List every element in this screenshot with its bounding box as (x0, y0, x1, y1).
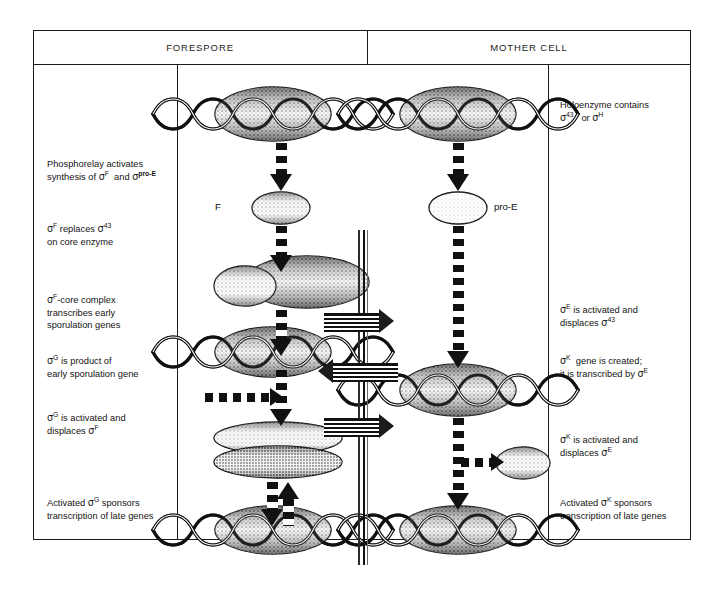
mothercell-arrow-2 (453, 226, 464, 368)
note-phosphorelay-line-2: synthesis of σF and σpro-E (47, 171, 156, 184)
forespore-arrow-2 (276, 226, 287, 272)
mothercell-sigma-k-blob (496, 447, 550, 479)
note-sigma-k-gene-line-1: σK gene is created; (560, 355, 648, 368)
mothercell-pro-e-blob (429, 192, 487, 224)
label-pro-e: pro-E (494, 201, 517, 212)
note-sigma-g-activated-line-1: σG is activated and (47, 412, 126, 425)
septum-membrane (358, 230, 369, 565)
note-sigma-g-sponsors-line-1: Activated σG sponsors (47, 497, 153, 510)
mothercell-horizontal-arrow (461, 458, 503, 467)
septum-arrow-3 (324, 418, 394, 435)
note-sigma-f-core-line-1: σF-core complex (47, 294, 120, 307)
forespore-sigma-f-blob (252, 192, 310, 224)
note-holoenzyme-line-2: σ43 or σH (560, 112, 649, 125)
note-sigma-k-activated-line-2: displaces σE (560, 447, 638, 460)
mothercell-dna-3 (338, 506, 578, 554)
forespore-horizontal-arrow (205, 393, 283, 402)
note-sigma-g-activated-line-2: displaces σF (47, 425, 126, 438)
forespore-arrow-5-up (283, 482, 294, 526)
forespore-dna-1 (153, 87, 393, 141)
forespore-arrow-4 (276, 370, 287, 426)
note-sigma-g-sponsors: Activated σG sponsors transcription of l… (47, 497, 153, 522)
mothercell-dna-1 (338, 87, 578, 141)
note-sigma-f-core-line-2: transcribes early (47, 307, 120, 320)
note-sigma-g-product: σG is product of early sporulation gene (47, 355, 138, 380)
header-forespore-label: FORESPORE (166, 42, 234, 53)
header-mother-cell-label: MOTHER CELL (490, 42, 567, 53)
header-forespore: FORESPORE (33, 30, 367, 64)
frame-bottom-rule (33, 539, 691, 540)
forespore-arrow-1 (276, 143, 287, 191)
forespore-dna-2 (153, 327, 393, 377)
note-sigma-e-activated-line-2: displaces σ43 (560, 317, 638, 330)
forespore-arrow-5 (267, 482, 278, 526)
note-sigma-e-activated: σE is activated and displaces σ43 (560, 304, 638, 329)
septum-arrow-1 (324, 313, 394, 330)
label-f: F (215, 201, 221, 212)
note-phosphorelay: Phosphorelay activates synthesis of σF a… (47, 158, 156, 183)
septum-arrow-2 (318, 363, 398, 380)
note-sigma-f-replaces-line-2: on core enzyme (47, 236, 113, 249)
note-sigma-k-activated: σK is activated and displaces σE (560, 434, 638, 459)
frame-left-rule (33, 30, 34, 540)
note-sigma-f-replaces: σF replaces σ43 on core enzyme (47, 223, 113, 248)
note-sigma-k-gene-line-2: it is transcribed by σE (560, 368, 648, 381)
note-sigma-g-product-line-2: early sporulation gene (47, 368, 138, 381)
forespore-core-complex (214, 256, 369, 308)
note-sigma-k-sponsors-line-2: transcription of late genes (560, 510, 666, 523)
note-holoenzyme: Holoenzyme contains σ43 or σH (560, 99, 649, 124)
note-sigma-k-sponsors: Activated σK sponsors transcription of l… (560, 497, 666, 522)
header-mother-cell: MOTHER CELL (368, 30, 690, 64)
note-sigma-k-gene: σK gene is created; it is transcribed by… (560, 355, 648, 380)
note-sigma-k-sponsors-line-1: Activated σK sponsors (560, 497, 666, 510)
forespore-sigma-g-complex (214, 422, 342, 478)
note-sigma-g-sponsors-line-2: transcription of late genes (47, 510, 153, 523)
right-column-divider (548, 64, 549, 540)
mothercell-arrow-1 (453, 143, 464, 191)
left-column-divider (177, 64, 178, 540)
mothercell-dna-2 (338, 364, 578, 416)
forespore-dna-3 (153, 506, 393, 554)
frame-right-rule (690, 30, 691, 540)
sporulation-sigma-factor-figure: FORESPORE MOTHER CELL Phosphorelay activ… (33, 30, 691, 540)
mothercell-arrow-3 (453, 418, 464, 510)
note-sigma-k-activated-line-1: σK is activated and (560, 434, 638, 447)
forespore-arrow-3 (276, 310, 287, 356)
note-sigma-f-core: σF-core complex transcribes early sporul… (47, 294, 120, 332)
note-sigma-g-product-line-1: σG is product of (47, 355, 138, 368)
note-sigma-f-core-line-3: sporulation genes (47, 319, 120, 332)
note-sigma-f-replaces-line-1: σF replaces σ43 (47, 223, 113, 236)
header-bottom-rule (33, 64, 691, 65)
note-sigma-g-activated: σG is activated and displaces σF (47, 412, 126, 437)
note-sigma-e-activated-line-1: σE is activated and (560, 304, 638, 317)
